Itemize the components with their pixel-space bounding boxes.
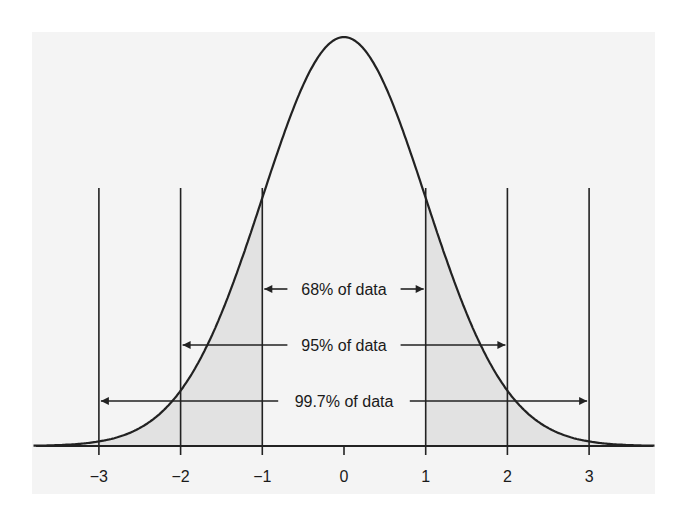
annotation-label: 95% of data xyxy=(301,337,387,354)
annotation-label: 68% of data xyxy=(301,281,387,298)
annotation-label: 99.7% of data xyxy=(295,393,394,410)
x-tick-label: 0 xyxy=(340,468,349,485)
x-tick-label: −1 xyxy=(253,468,271,485)
x-tick-label: −3 xyxy=(90,468,108,485)
x-tick-label: 3 xyxy=(585,468,594,485)
normal-distribution-chart: −3−2−10123 68% of data95% of data99.7% o… xyxy=(0,0,680,510)
x-tick-label: 2 xyxy=(503,468,512,485)
x-tick-label: 1 xyxy=(421,468,430,485)
x-tick-label: −2 xyxy=(171,468,189,485)
chart-panel xyxy=(32,32,655,494)
